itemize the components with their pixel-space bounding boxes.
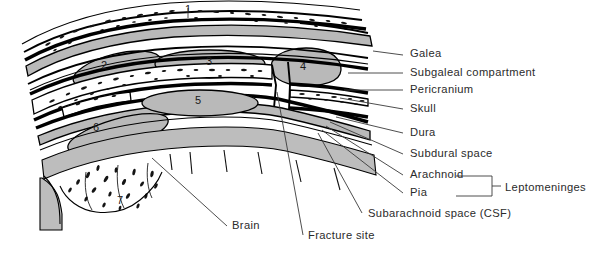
callout-label-galea: Galea [410,47,442,59]
region-number-1: 1 [185,3,191,15]
region-number-6: 6 [93,121,99,133]
region-number-2: 2 [101,59,107,71]
callout-label-pericranium: Pericranium [410,83,474,95]
leader-brain [152,158,227,226]
callout-label-subarachnoid-space: Subarachnoid space (CSF) [368,207,511,219]
callout-label-skull: Skull [410,102,436,114]
region-number-7: 7 [117,194,123,206]
region-number-5: 5 [195,94,201,106]
callout-label-subgaleal-compartment: Subgaleal compartment [410,66,536,78]
callout-label-leptomeninges: Leptomeninges [505,181,586,193]
anatomical-figure: 1 2 3 4 5 6 7 Galea Subgaleal compartmen… [0,0,600,253]
callout-label-fracture-site: Fracture site [308,229,375,241]
callout-label-brain: Brain [232,219,260,231]
figure-canvas: 1 2 3 4 5 6 7 Galea Subgaleal compartmen… [0,0,600,253]
region-number-3: 3 [206,55,212,67]
cortex-texture [67,165,158,211]
callout-label-arachnoid: Arachnoid [410,168,464,180]
leader-galea [373,51,403,55]
callout-label-subdural-space: Subdural space [410,147,493,159]
callout-label-dura: Dura [410,126,436,138]
callout-label-pia: Pia [410,186,428,198]
region-number-4: 4 [300,60,306,72]
